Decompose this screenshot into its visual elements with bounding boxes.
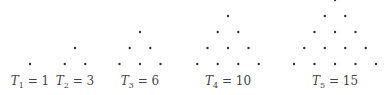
dot	[159, 63, 161, 65]
label-T4: T4 = 10	[205, 74, 251, 90]
dot	[303, 47, 305, 49]
dot	[217, 31, 219, 33]
dot	[227, 15, 229, 17]
label-T3: T3 = 6	[121, 74, 159, 90]
dot	[313, 31, 315, 33]
dot	[149, 47, 151, 49]
dot	[334, 0, 336, 1]
dot	[227, 47, 229, 49]
dot	[324, 47, 326, 49]
dot	[324, 15, 326, 17]
dot	[237, 63, 239, 65]
dot	[365, 47, 367, 49]
dot	[334, 63, 336, 65]
dot	[196, 63, 198, 65]
triangle-T2	[64, 47, 87, 65]
triangle-T4	[196, 15, 260, 65]
dot	[217, 63, 219, 65]
label-T2: T2 = 3	[56, 74, 94, 90]
triangle-T3	[118, 31, 161, 65]
dot	[206, 47, 208, 49]
dot	[354, 31, 356, 33]
triangle-T5	[293, 0, 377, 65]
dot	[334, 31, 336, 33]
dot	[293, 63, 295, 65]
dot	[84, 63, 86, 65]
dot	[139, 63, 141, 65]
dot	[139, 31, 141, 33]
dot	[29, 63, 31, 65]
dot	[258, 63, 260, 65]
dot	[74, 47, 76, 49]
dot	[344, 47, 346, 49]
label-T1: T1 = 1	[11, 74, 49, 90]
dot	[344, 15, 346, 17]
dot	[118, 63, 120, 65]
dot	[129, 47, 131, 49]
triangle-T1	[29, 63, 31, 65]
dot	[375, 63, 377, 65]
dot	[247, 47, 249, 49]
dot	[237, 31, 239, 33]
dot	[354, 63, 356, 65]
dot	[313, 63, 315, 65]
label-T5: T5 = 15	[312, 74, 358, 90]
dot	[64, 63, 66, 65]
